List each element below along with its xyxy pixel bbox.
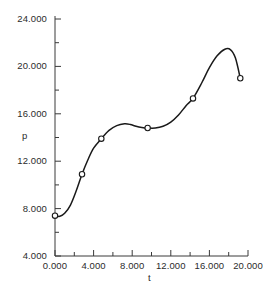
x-axis-tick-label: 20.000 <box>226 260 269 271</box>
data-point-marker <box>238 76 243 81</box>
x-axis-tick-label: 4.000 <box>72 260 116 271</box>
y-axis-tick-label: 8.000 <box>0 203 47 214</box>
y-axis-tick-label: 20.000 <box>0 60 47 71</box>
data-point-marker <box>99 136 104 141</box>
data-markers <box>52 76 243 219</box>
x-axis-tick-label: 0.000 <box>33 260 77 271</box>
data-point-marker <box>79 172 84 177</box>
x-axis-tick-label: 12.000 <box>149 260 193 271</box>
data-point-marker <box>145 125 150 130</box>
chart-container: 4.0008.00012.00016.00020.00024.000 0.000… <box>0 0 269 291</box>
axes-group <box>55 16 248 256</box>
series-line-p <box>55 49 240 217</box>
data-curve <box>55 49 240 217</box>
y-axis-title: p <box>22 130 27 141</box>
y-axis-tick-label: 24.000 <box>0 13 47 24</box>
y-axis-tick-label: 12.000 <box>0 155 47 166</box>
x-axis-tick-label: 8.000 <box>110 260 154 271</box>
plot-area <box>0 0 269 291</box>
data-point-marker <box>52 213 57 218</box>
x-axis-title: t <box>148 272 151 283</box>
y-axis-tick-label: 16.000 <box>0 108 47 119</box>
x-axis-tick-label: 16.000 <box>187 260 231 271</box>
data-point-marker <box>190 96 195 101</box>
